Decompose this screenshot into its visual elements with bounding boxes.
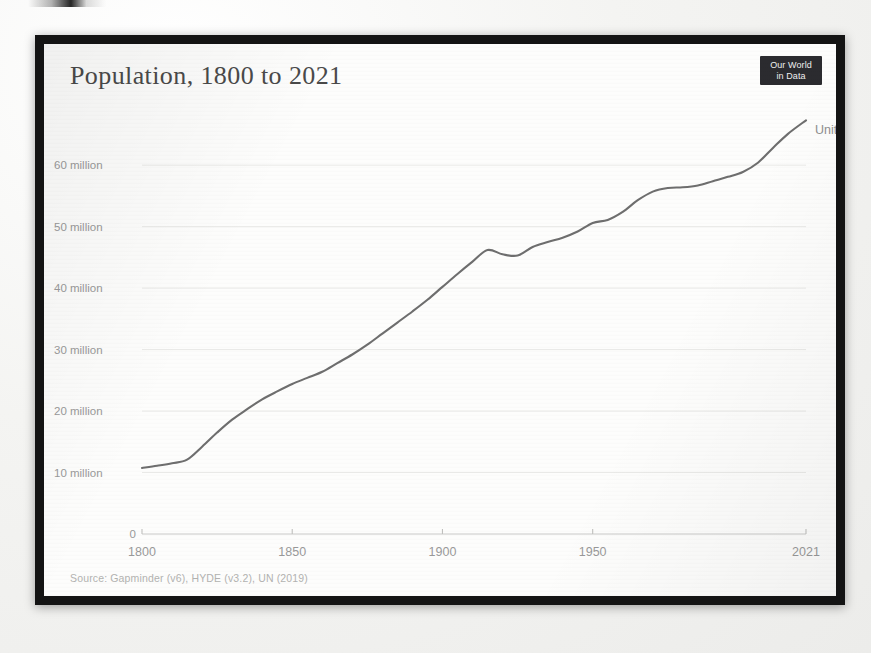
y-axis-tick-label: 10 million [54,467,103,479]
y-axis-tick-label: 50 million [54,221,103,233]
y-axis-labels-group: 010 million20 million30 million40 millio… [54,159,136,540]
series-line[interactable] [142,120,806,468]
chart-plot-area[interactable]: 010 million20 million30 million40 millio… [44,44,836,596]
chart-card: Population, 1800 to 2021 Our World in Da… [44,44,836,596]
source-note: Source: Gapminder (v6), HYDE (v3.2), UN … [70,572,308,584]
y-axis-tick-label: 30 million [54,344,103,356]
y-axis-tick-label: 40 million [54,282,103,294]
y-axis-tick-label: 20 million [54,405,103,417]
x-axis-group: 18001850190019502021 [128,529,820,559]
scan-artifact [28,0,106,7]
chart-frame: Population, 1800 to 2021 Our World in Da… [35,35,845,605]
line-chart-svg: 010 million20 million30 million40 millio… [44,44,836,596]
x-axis-tick-label: 1850 [278,545,306,559]
y-axis-tick-label: 0 [130,528,136,540]
y-axis-tick-label: 60 million [54,159,103,171]
x-axis-tick-label: 2021 [792,545,820,559]
x-axis-tick-label: 1950 [579,545,607,559]
x-axis-tick-label: 1900 [429,545,457,559]
series-group [142,120,806,468]
gridlines-group [142,165,806,472]
series-label: United Kingdom [815,123,836,137]
x-axis-tick-label: 1800 [128,545,156,559]
series-label-group: United Kingdom [815,123,836,137]
